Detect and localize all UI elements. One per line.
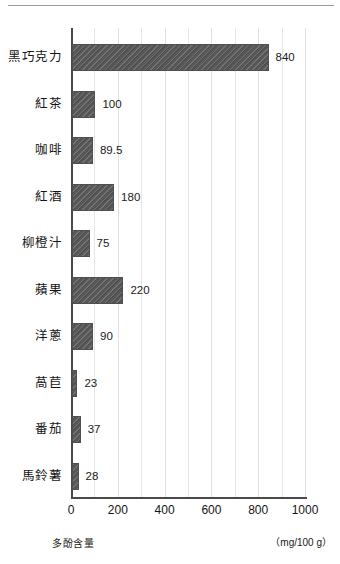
- x-tick-label: 1000: [292, 503, 319, 517]
- value-label: 100: [102, 91, 121, 118]
- gridline-700: [235, 28, 236, 498]
- value-label: 23: [84, 370, 97, 397]
- category-label: 番茄: [0, 416, 62, 443]
- bar: [72, 463, 79, 490]
- gridline-500: [188, 28, 189, 498]
- x-tick-label: 800: [248, 503, 268, 517]
- category-label: 蘋果: [0, 277, 62, 304]
- value-label: 75: [97, 230, 110, 257]
- bar: [72, 44, 269, 71]
- value-label: 220: [130, 277, 149, 304]
- unit-note: （mg/100 g）: [270, 534, 332, 549]
- bar: [72, 137, 93, 164]
- category-label: 馬鈴薯: [0, 463, 62, 490]
- value-label: 840: [276, 44, 295, 71]
- bar: [72, 91, 95, 118]
- gridline-600: [211, 28, 212, 498]
- bar: [72, 323, 93, 350]
- gridline-1000: [305, 28, 306, 498]
- x-tick-label: 400: [155, 503, 175, 517]
- value-label: 28: [86, 463, 99, 490]
- value-label: 89.5: [100, 137, 122, 164]
- bar: [72, 277, 123, 304]
- value-label: 90: [100, 323, 113, 350]
- gridline-300: [141, 28, 142, 498]
- category-label-group: 黑巧克力紅茶咖啡紅酒柳橙汁蘋果洋蔥萵苣番茄馬鈴薯: [0, 28, 64, 498]
- x-tick-label: 600: [201, 503, 221, 517]
- top-divider: [8, 5, 334, 6]
- x-tick-label: 200: [108, 503, 128, 517]
- category-label: 黑巧克力: [0, 44, 62, 71]
- bar: [72, 416, 81, 443]
- value-label: 180: [121, 184, 140, 211]
- bar: [72, 230, 90, 257]
- bar: [72, 184, 114, 211]
- x-axis-title: 多酚含量: [52, 535, 94, 550]
- x-axis-line: [71, 497, 307, 499]
- bar: [72, 370, 77, 397]
- category-label: 紅酒: [0, 184, 62, 211]
- value-label: 37: [88, 416, 101, 443]
- category-label: 柳橙汁: [0, 230, 62, 257]
- chart-page: 黑巧克力紅茶咖啡紅酒柳橙汁蘋果洋蔥萵苣番茄馬鈴薯 84010089.518075…: [0, 0, 340, 564]
- category-label: 洋蔥: [0, 323, 62, 350]
- gridline-800: [258, 28, 259, 498]
- x-tick-label-group: 02004006008001000: [0, 503, 340, 521]
- category-label: 紅茶: [0, 91, 62, 118]
- x-tick-label: 0: [68, 503, 75, 517]
- gridline-900: [282, 28, 283, 498]
- category-label: 咖啡: [0, 137, 62, 164]
- category-label: 萵苣: [0, 370, 62, 397]
- gridline-400: [165, 28, 166, 498]
